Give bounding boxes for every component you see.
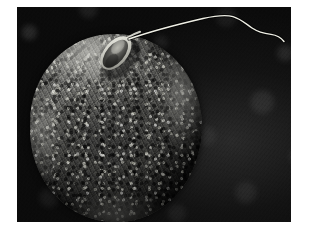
frame-edge-right (291, 0, 310, 236)
frame-edge-bottom (0, 222, 310, 236)
ovum-egg-cell (30, 34, 202, 222)
ovum-vignette-shading (30, 34, 202, 222)
frame-edge-top (0, 0, 310, 7)
micrograph-screenshot (0, 0, 310, 236)
micrograph-photo (17, 7, 291, 222)
frame-edge-left (0, 0, 17, 236)
